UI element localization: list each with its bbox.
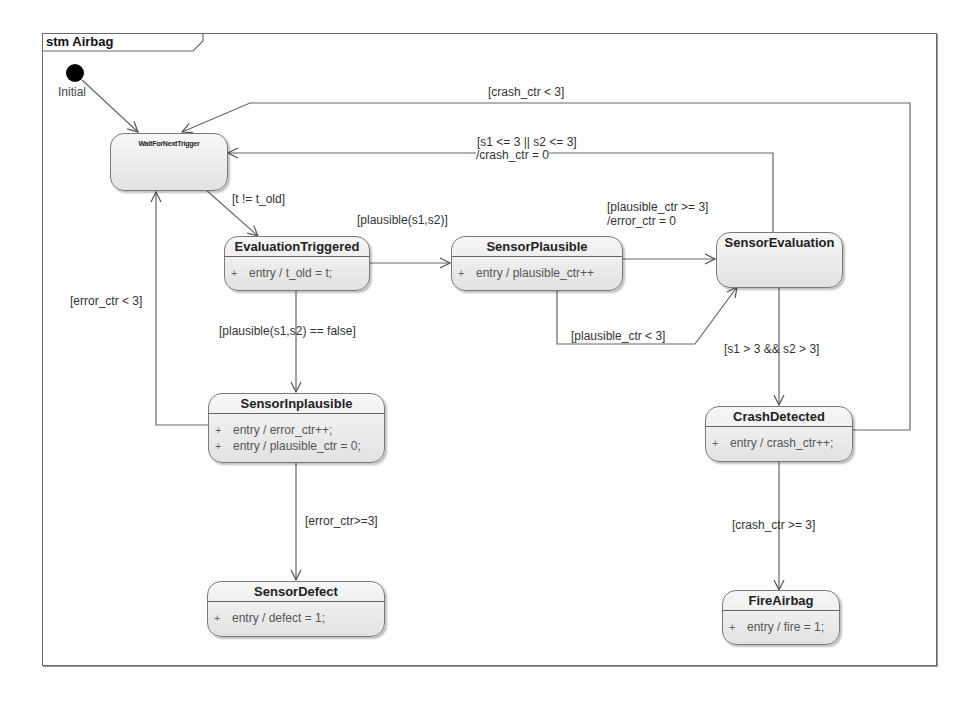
effect-plausible-ge3: /error_ctr = 0 [607,215,676,228]
guard-crash-ge3: [crash_ctr >= 3] [732,519,815,532]
state-activity: +entry / error_ctr++; [209,422,384,438]
initial-pseudostate[interactable] [66,64,84,82]
state-title: EvaluationTriggered [225,237,369,257]
diagram-frame-label: stm Airbag [42,33,127,51]
state-crash-detected[interactable]: CrashDetected +entry / crash_ctr++; [705,406,853,462]
state-title: SensorPlausible [452,237,622,257]
guard-not-plausible: [plausible(s1,s2) == false] [219,325,356,338]
state-activity: +entry / defect = 1; [208,610,384,626]
state-title: SensorInplausible [209,394,384,414]
initial-label: Initial [58,85,86,99]
guard-s-high: [s1 > 3 && s2 > 3] [724,343,819,356]
state-evaluation-triggered[interactable]: EvaluationTriggered +entry / t_old = t; [224,236,370,291]
effect-s-low: /crash_ctr = 0 [476,149,549,162]
state-sensor-inplausible[interactable]: SensorInplausible +entry / error_ctr++; … [208,393,385,463]
guard-t-changed: [t != t_old] [232,193,285,206]
state-sensor-defect[interactable]: SensorDefect +entry / defect = 1; [207,581,385,637]
state-fire-airbag[interactable]: FireAirbag +entry / fire = 1; [722,590,840,645]
guard-plausible-lt3: [plausible_ctr < 3] [571,330,665,343]
state-activity: +entry / crash_ctr++; [706,435,852,451]
state-sensor-plausible[interactable]: SensorPlausible +entry / plausible_ctr++ [451,236,623,291]
guard-crash-lt3: [crash_ctr < 3] [488,86,564,99]
guard-plausible-ge3: [plausible_ctr >= 3] [607,201,708,214]
state-activity: +entry / plausible_ctr = 0; [209,438,384,454]
state-wait-for-next-trigger[interactable]: WaitForNextTrigger [110,133,228,191]
state-title: CrashDetected [706,407,852,427]
state-title: WaitForNextTrigger [111,134,227,152]
guard-error-lt3: [error_ctr < 3] [70,295,142,308]
state-sensor-evaluation[interactable]: SensorEvaluation [716,232,843,288]
guard-error-ge3: [error_ctr>=3] [305,515,378,528]
state-activity: +entry / plausible_ctr++ [452,265,622,281]
state-title: FireAirbag [723,591,839,611]
state-activity: +entry / fire = 1; [723,619,839,635]
state-activity: +entry / t_old = t; [225,265,369,281]
state-title: SensorDefect [208,582,384,602]
guard-plausible: [plausible(s1,s2)] [357,214,448,227]
state-title: SensorEvaluation [717,233,842,252]
